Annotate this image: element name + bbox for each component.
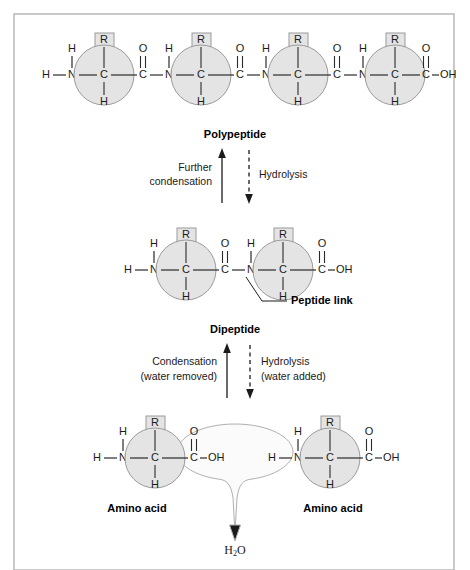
residue-unit: N H R C H C O [165, 33, 245, 107]
atom-o: O [422, 42, 431, 54]
atom-h-on-n: H [247, 237, 255, 249]
atom-c-carbonyl: C [365, 451, 373, 463]
condensation-arrow-head [223, 343, 231, 353]
residue-unit: N H R C H C O [262, 33, 342, 107]
atom-r: R [100, 33, 108, 45]
atom-h-on-n: H [150, 237, 158, 249]
atom-h-terminus: H [93, 451, 101, 463]
further-condensation-label-line1: Further [178, 161, 212, 173]
residue-unit: N H R C H C O [68, 33, 148, 107]
upper-arrow-group: Further condensation Hydrolysis [150, 148, 308, 204]
dipeptide-chain: H N H R C H C O [124, 228, 354, 306]
atom-c-alpha: C [151, 451, 159, 463]
polypeptide-label: Polypeptide [204, 128, 266, 140]
lower-arrow-group: Condensation (water removed) Hydrolysis … [141, 343, 326, 399]
further-condensation-label-line2: condensation [150, 175, 213, 187]
atom-o: O [333, 42, 342, 54]
peptide-link-label: Peptide link [291, 294, 354, 306]
hydrolysis-arrow-head [245, 194, 253, 204]
atom-r: R [182, 228, 190, 240]
atom-o: O [236, 42, 245, 54]
residue-unit: N H R C H C O [150, 228, 230, 302]
atom-o: O [221, 237, 230, 249]
atom-c-alpha: C [326, 451, 334, 463]
water-arrow-head [230, 525, 241, 541]
polypeptide-chain: H N H R C H C O [42, 33, 457, 107]
atom-h-on-n: H [68, 42, 76, 54]
atom-c-alpha: C [182, 263, 190, 275]
atom-c-carbonyl: C [190, 451, 198, 463]
atom-c-carbonyl: C [236, 68, 244, 80]
condensation-label-line1: Condensation [152, 355, 217, 367]
atom-o: O [365, 425, 374, 437]
hydrolysis-arrow-head [246, 389, 254, 399]
amino-acid-left-label: Amino acid [107, 502, 166, 514]
atom-h-on-c: H [391, 95, 399, 107]
residue-unit: N H R C H C O OH [359, 33, 457, 107]
dipeptide-label: Dipeptide [210, 323, 260, 335]
atom-oh-terminus: OH [336, 263, 353, 275]
atom-h-on-c: H [197, 95, 205, 107]
condensation-arrow-head [218, 148, 226, 158]
atom-o: O [318, 237, 327, 249]
hydrolysis-label: Hydrolysis [259, 168, 307, 180]
atom-c-carbonyl: C [318, 263, 326, 275]
atom-c-alpha: C [391, 68, 399, 80]
atom-h-on-c: H [326, 478, 334, 490]
atom-h-on-n: H [359, 42, 367, 54]
water-removal-balloon [177, 424, 293, 533]
amino-acid-right-label: Amino acid [303, 502, 362, 514]
water-formula-label: H2O [224, 543, 246, 558]
atom-h-on-n: H [262, 42, 270, 54]
atom-o: O [190, 425, 199, 437]
atom-r: R [294, 33, 302, 45]
atom-h-on-c: H [100, 95, 108, 107]
atom-h-on-c: H [182, 290, 190, 302]
atom-r: R [326, 416, 334, 428]
atom-o: O [139, 42, 148, 54]
protein-synthesis-diagram: H N H R C H C O [0, 0, 470, 570]
atom-h-terminus: H [124, 263, 132, 275]
atom-r: R [279, 228, 287, 240]
atom-oh-terminus: OH [208, 451, 225, 463]
atom-c-alpha: C [100, 68, 108, 80]
atom-h-on-n: H [294, 425, 302, 437]
atom-r: R [391, 33, 399, 45]
atom-h-terminus: H [42, 68, 50, 80]
atom-h-on-n: H [165, 42, 173, 54]
atom-r: R [151, 416, 159, 428]
atom-oh-terminus: OH [383, 451, 400, 463]
atom-r: R [197, 33, 205, 45]
residue-unit: N H R C H C O OH [247, 228, 353, 302]
atom-c-carbonyl: C [333, 68, 341, 80]
atom-c-carbonyl: C [422, 68, 430, 80]
hydrolysis-label-line2: (water added) [261, 370, 326, 382]
atom-c-alpha: C [294, 68, 302, 80]
atom-h-on-c: H [294, 95, 302, 107]
atom-c-carbonyl: C [139, 68, 147, 80]
atom-h-on-c: H [279, 290, 287, 302]
atom-h-terminus: H [268, 451, 276, 463]
atom-c-carbonyl: C [221, 263, 229, 275]
atom-h-on-n: H [119, 425, 127, 437]
atom-oh-terminus: OH [440, 68, 457, 80]
atom-c-alpha: C [197, 68, 205, 80]
atom-c-alpha: C [279, 263, 287, 275]
hydrolysis-label-line1: Hydrolysis [261, 355, 309, 367]
atom-h-on-c: H [151, 478, 159, 490]
condensation-label-line2: (water removed) [141, 370, 217, 382]
